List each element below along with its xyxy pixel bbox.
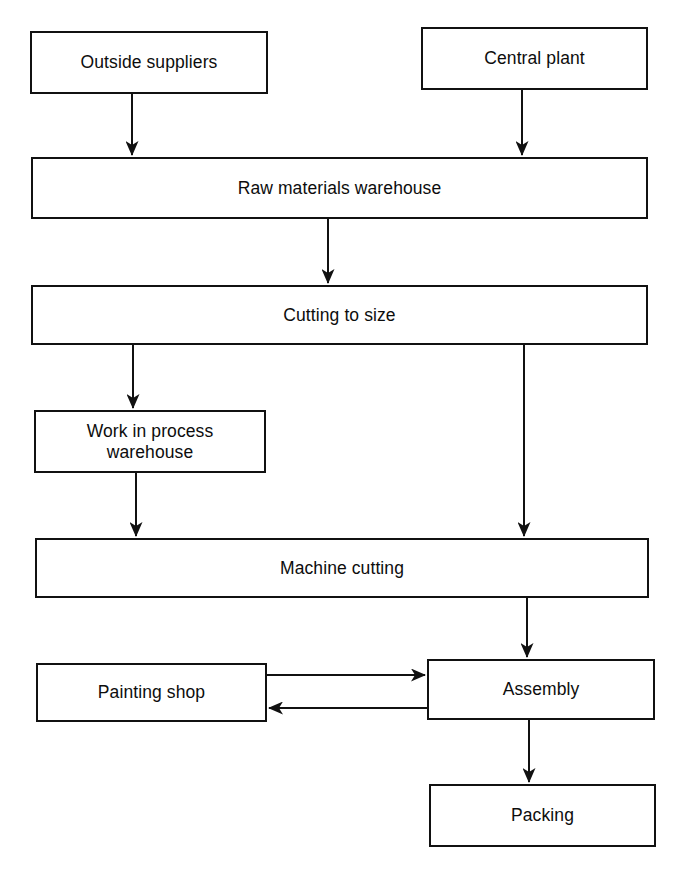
node-label-assembly: Assembly	[497, 679, 586, 700]
node-label-work-in-process-warehouse: Work in process warehouse	[81, 421, 220, 462]
node-cutting-to-size[interactable]: Cutting to size	[31, 285, 648, 345]
node-label-raw-materials-warehouse: Raw materials warehouse	[232, 178, 448, 199]
node-label-central-plant: Central plant	[478, 48, 591, 69]
node-label-packing: Packing	[505, 805, 580, 826]
node-assembly[interactable]: Assembly	[427, 659, 655, 720]
node-central-plant[interactable]: Central plant	[421, 27, 648, 90]
node-packing[interactable]: Packing	[429, 784, 656, 847]
node-label-painting-shop: Painting shop	[92, 682, 211, 703]
node-painting-shop[interactable]: Painting shop	[36, 663, 267, 722]
node-machine-cutting[interactable]: Machine cutting	[35, 538, 649, 598]
node-label-outside-suppliers: Outside suppliers	[75, 52, 224, 73]
node-label-machine-cutting: Machine cutting	[274, 558, 410, 579]
node-label-cutting-to-size: Cutting to size	[277, 305, 401, 326]
node-raw-materials-warehouse[interactable]: Raw materials warehouse	[31, 157, 648, 219]
node-work-in-process-warehouse[interactable]: Work in process warehouse	[34, 410, 266, 473]
flowchart-canvas: Outside suppliers Central plant Raw mate…	[0, 0, 685, 870]
node-outside-suppliers[interactable]: Outside suppliers	[30, 31, 268, 94]
